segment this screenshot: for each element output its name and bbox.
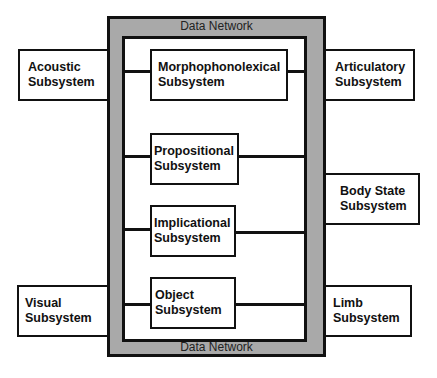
body-state-subsystem-box: Body StateSubsystem: [324, 173, 420, 225]
connector-object-left: [122, 303, 152, 306]
acoustic-label-line1: Acoustic: [28, 60, 95, 75]
limb-label-line2: Subsystem: [333, 311, 400, 326]
object-label-line2: Subsystem: [155, 303, 222, 318]
propositional-label-line1: Propositional: [154, 144, 234, 159]
body-state-label-line2: Subsystem: [340, 199, 407, 214]
propositional-subsystem-box: PropositionalSubsystem: [150, 133, 239, 185]
object-subsystem-box: ObjectSubsystem: [150, 277, 236, 329]
implicational-label-line1: Implicational: [154, 216, 230, 231]
connector-impl-left: [122, 228, 152, 231]
connector-prop-left: [122, 155, 152, 158]
visual-label-line2: Subsystem: [25, 311, 92, 326]
visual-label-line1: Visual: [25, 296, 92, 311]
acoustic-label-line2: Subsystem: [28, 75, 95, 90]
connector-morpho-right: [286, 70, 306, 73]
acoustic-subsystem-box: AcousticSubsystem: [18, 49, 109, 101]
connector-object-right: [234, 303, 306, 306]
connector-morpho-left: [122, 70, 152, 73]
object-label-line1: Object: [155, 288, 222, 303]
articulatory-label-line2: Subsystem: [335, 75, 405, 90]
body-state-label-line1: Body State: [340, 184, 407, 199]
connector-impl-right: [234, 231, 306, 234]
connector-prop-right: [237, 155, 306, 158]
morphophonolexical-label-line1: Morphophonolexical: [158, 60, 280, 75]
limb-label-line1: Limb: [333, 296, 400, 311]
articulatory-label-line1: Articulatory: [335, 60, 405, 75]
morphophonolexical-subsystem-box: MorphophonolexicalSubsystem: [150, 49, 288, 101]
data-network-bottom-label: Data Network: [107, 340, 326, 354]
morphophonolexical-label-line2: Subsystem: [158, 75, 280, 90]
propositional-label-line2: Subsystem: [154, 159, 234, 174]
articulatory-subsystem-box: ArticulatorySubsystem: [324, 49, 415, 101]
limb-subsystem-box: LimbSubsystem: [324, 285, 412, 337]
implicational-label-line2: Subsystem: [154, 231, 230, 246]
visual-subsystem-box: VisualSubsystem: [17, 285, 109, 337]
data-network-top-label: Data Network: [107, 19, 326, 33]
implicational-subsystem-box: ImplicationalSubsystem: [150, 205, 236, 257]
